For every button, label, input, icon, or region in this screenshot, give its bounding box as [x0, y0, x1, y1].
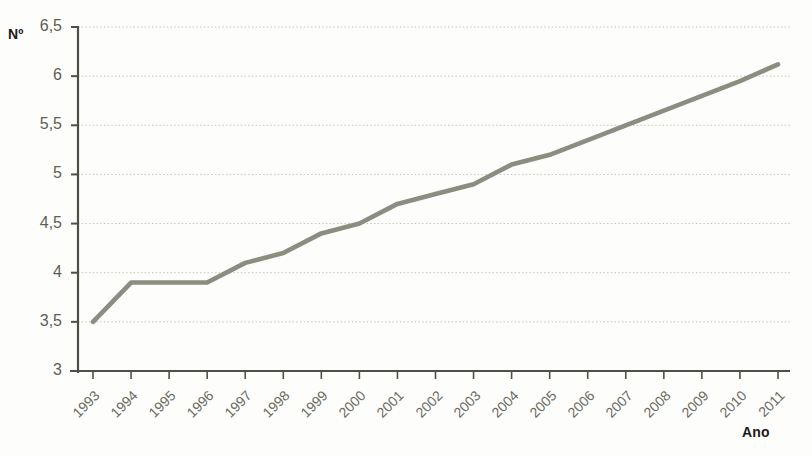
y-axis-tick-label: 3,5 — [22, 312, 62, 330]
line-chart: Nº Ano 33,544,555,566,5 1993199419951996… — [0, 0, 812, 456]
y-axis-tick-label: 3 — [22, 361, 62, 379]
y-axis-tick-label: 5 — [22, 164, 62, 182]
y-axis-tick-label: 5,5 — [22, 115, 62, 133]
y-axis-tick-label: 6 — [22, 66, 62, 84]
plot-area — [0, 0, 812, 456]
y-axis-tick-label: 4,5 — [22, 214, 62, 232]
y-axis-tick-label: 4 — [22, 263, 62, 281]
data-series-line — [93, 64, 778, 322]
y-axis-tick-label: 6,5 — [22, 17, 62, 35]
